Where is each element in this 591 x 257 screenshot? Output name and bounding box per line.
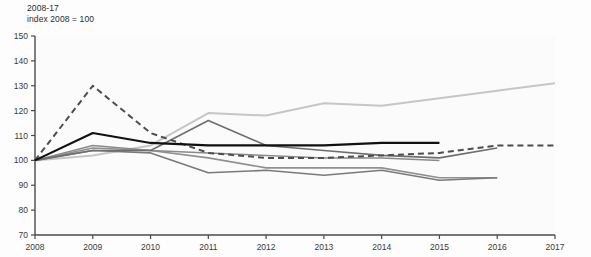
y-tick-label: 150	[14, 31, 28, 41]
y-tick-label: 100	[14, 155, 28, 165]
y-tick-label: 80	[19, 205, 29, 215]
y-axis-ticks: 708090100110120130140150	[14, 31, 35, 240]
x-tick-label: 2011	[199, 242, 218, 252]
x-tick-label: 2008	[26, 242, 45, 252]
chart-figure: 2008-17 index 2008 = 100 708090100110120…	[0, 0, 591, 257]
x-axis-ticks: 2008200920102011201220132014201520162017	[26, 235, 565, 252]
chart-canvas: 708090100110120130140150 200820092010201…	[0, 0, 591, 257]
y-tick-label: 90	[19, 180, 29, 190]
x-tick-label: 2013	[314, 242, 333, 252]
y-tick-label: 70	[19, 230, 29, 240]
x-tick-label: 2009	[83, 242, 102, 252]
x-tick-label: 2010	[141, 242, 160, 252]
y-tick-label: 130	[14, 81, 28, 91]
x-tick-label: 2016	[488, 242, 507, 252]
y-tick-label: 110	[14, 131, 28, 141]
y-tick-label: 140	[14, 56, 28, 66]
x-tick-label: 2015	[430, 242, 449, 252]
x-tick-label: 2012	[257, 242, 276, 252]
x-tick-label: 2017	[546, 242, 565, 252]
x-tick-label: 2014	[372, 242, 391, 252]
y-tick-label: 120	[14, 106, 28, 116]
